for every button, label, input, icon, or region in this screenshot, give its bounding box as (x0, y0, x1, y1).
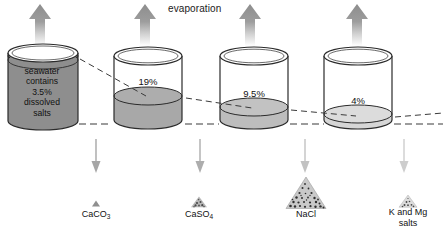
salt-label-k-mg-line-2: salts (378, 218, 438, 229)
evaporation-label: evaporation (168, 3, 221, 14)
seawater-caption-line-2: contains (10, 76, 74, 86)
up-arrow-icon (237, 2, 263, 48)
down-arrow-icon (90, 139, 102, 175)
up-arrow-icon (344, 2, 370, 48)
seawater-caption-line-5: salts (10, 108, 74, 118)
salt-label-caco3: CaCO3 (66, 209, 126, 221)
seawater-caption-line-4: dissolved (10, 97, 74, 107)
down-arrow-icon (398, 139, 410, 175)
salt-label-caso4-formula: CaSO (185, 209, 210, 219)
salt-label-k-mg-line-1: K and Mg (378, 207, 438, 218)
down-arrow-icon (194, 139, 206, 175)
seawater-caption: seawater contains 3.5% dissolved salts (10, 66, 74, 118)
salt-pile-caco3 (91, 200, 101, 207)
salt-label-nacl-formula: NaCl (296, 209, 316, 219)
salt-label-caso4: CaSO4 (169, 209, 229, 221)
salt-label-k-mg: K and Mg salts (378, 207, 438, 228)
up-arrow-icon (132, 2, 158, 48)
concentration-label-stage-2: 19% (124, 76, 172, 87)
salt-pile-caso4 (190, 196, 208, 208)
seawater-caption-line-3: 3.5% (10, 87, 74, 97)
salt-label-caco3-subscript: 3 (107, 213, 111, 220)
beaker-stage-4 (321, 46, 395, 132)
salt-pile-k-mg (398, 194, 418, 208)
concentration-label-stage-4: 4% (334, 95, 382, 106)
salt-label-caco3-formula: CaCO (82, 209, 107, 219)
salt-label-caso4-subscript: 4 (209, 213, 213, 220)
salt-label-nacl: NaCl (276, 209, 336, 220)
down-arrow-icon (299, 139, 311, 175)
concentration-label-stage-3: 9.5% (230, 88, 278, 99)
evaporation-diagram: evaporation seawater contains 3.5% disso… (0, 0, 443, 236)
salt-pile-nacl (284, 176, 328, 210)
seawater-caption-line-1: seawater (10, 66, 74, 76)
beaker-stage-2 (111, 46, 185, 132)
